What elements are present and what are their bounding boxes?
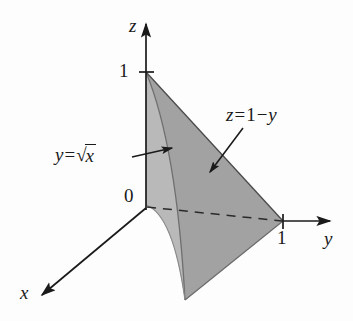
axis-x-line [42, 208, 146, 295]
axis-y-tick-label-1: 1 [277, 228, 287, 247]
label-curve-equation: y=√x [55, 145, 96, 164]
label-plane-equation: z=1−y [226, 105, 277, 124]
plane-eq-rhs-variable: y [268, 104, 276, 125]
radicand: x [85, 144, 96, 166]
plane-eq-minus: − [256, 104, 269, 125]
plane-eq-number: 1 [246, 104, 256, 125]
figure-3d-solid-diagram: z 1 1 y x 0 z=1−y y=√x [0, 0, 353, 321]
origin-label: 0 [124, 186, 134, 205]
axis-label-z: z [129, 16, 136, 35]
plane-eq-operator: = [233, 104, 246, 125]
radical-expression: √x [76, 145, 96, 164]
axis-label-x: x [20, 283, 28, 302]
axis-label-y: y [324, 229, 332, 248]
axis-z-tick-label-1: 1 [119, 61, 129, 80]
diagram-canvas [0, 0, 353, 321]
curve-eq-operator: = [63, 144, 76, 165]
